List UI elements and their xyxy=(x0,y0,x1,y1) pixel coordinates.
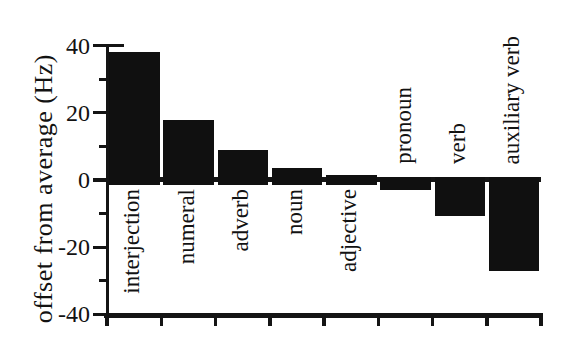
category-label-pronoun: pronoun xyxy=(392,87,417,164)
bar-numeral xyxy=(163,120,214,186)
y-minor-tick xyxy=(99,78,107,81)
bar-adverb xyxy=(218,150,269,186)
y-major-tick xyxy=(93,246,107,249)
bar-adjective xyxy=(326,175,377,186)
y-minor-tick xyxy=(99,212,107,215)
y-tick-label: 40 xyxy=(24,31,90,61)
category-label-noun: noun xyxy=(283,189,308,235)
y-tick-label: -20 xyxy=(24,232,90,262)
y-major-tick xyxy=(93,111,107,114)
bar-pronoun xyxy=(380,177,431,191)
x-tick xyxy=(214,318,218,326)
x-tick xyxy=(377,318,381,326)
x-tick xyxy=(160,318,164,326)
y-tick-label: -40 xyxy=(24,299,90,329)
category-label-adjective: adjective xyxy=(337,189,362,272)
plot-area: 40200-20-40interjectionnumeraladverbnoun… xyxy=(0,0,571,340)
y-axis-top-cap xyxy=(106,44,124,47)
y-major-tick xyxy=(93,313,107,316)
bar-interjection xyxy=(109,52,160,185)
x-tick xyxy=(105,318,109,326)
category-label-adverb: adverb xyxy=(229,189,254,252)
y-major-tick xyxy=(93,44,107,47)
y-tick-label: 20 xyxy=(24,98,90,128)
x-tick xyxy=(431,318,435,326)
bar-chart-figure: offset from average (Hz) 40200-20-40inte… xyxy=(0,0,571,340)
x-tick xyxy=(485,318,489,326)
bar-verb xyxy=(435,177,486,216)
bar-noun xyxy=(272,168,323,185)
category-label-auxiliary-verb: auxiliary verb xyxy=(500,36,525,164)
x-tick xyxy=(268,318,272,326)
y-tick-label: 0 xyxy=(24,165,90,195)
x-tick xyxy=(539,318,543,326)
y-minor-tick xyxy=(99,145,107,148)
x-tick xyxy=(322,318,326,326)
y-minor-tick xyxy=(99,279,107,282)
category-label-numeral: numeral xyxy=(175,189,200,264)
y-major-tick xyxy=(93,178,107,181)
category-label-verb: verb xyxy=(446,123,471,164)
bar-auxiliary-verb xyxy=(489,177,540,272)
category-label-interjection: interjection xyxy=(120,189,145,294)
